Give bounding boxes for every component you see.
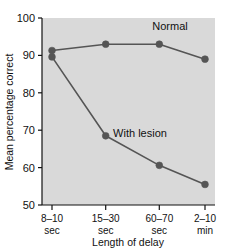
data-point [102, 41, 109, 48]
data-point [49, 53, 56, 60]
data-point [102, 132, 109, 139]
y-tick-label: 50 [23, 199, 35, 211]
y-tick-label: 80 [23, 87, 35, 99]
y-tick-label: 100 [17, 12, 35, 24]
y-tick-label: 90 [23, 49, 35, 61]
data-point [49, 47, 56, 54]
x-axis-title: Length of delay [92, 236, 165, 248]
y-tick-label: 70 [23, 124, 35, 136]
series-label-0: Normal [152, 20, 187, 32]
data-point [156, 41, 163, 48]
data-point [202, 181, 209, 188]
figure-container: 1009080706050 8–10sec15–30sec60–70sec2–1… [0, 0, 230, 252]
line-chart: 1009080706050 8–10sec15–30sec60–70sec2–1… [0, 0, 230, 252]
data-point [202, 56, 209, 63]
data-point [156, 162, 163, 169]
y-axis-title: Mean percentage correct [3, 54, 15, 171]
series-label-1: With lesion [113, 127, 167, 139]
y-tick-label: 60 [23, 162, 35, 174]
